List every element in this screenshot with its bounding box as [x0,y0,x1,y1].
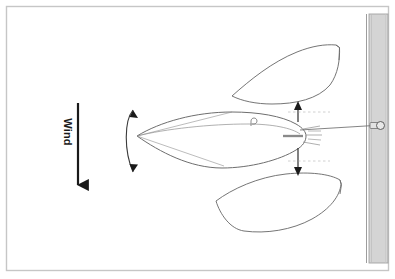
mooring-ring [370,122,385,130]
dock [369,14,388,263]
diagram-canvas [0,0,395,279]
mooring-diagram: Wind [0,0,395,279]
